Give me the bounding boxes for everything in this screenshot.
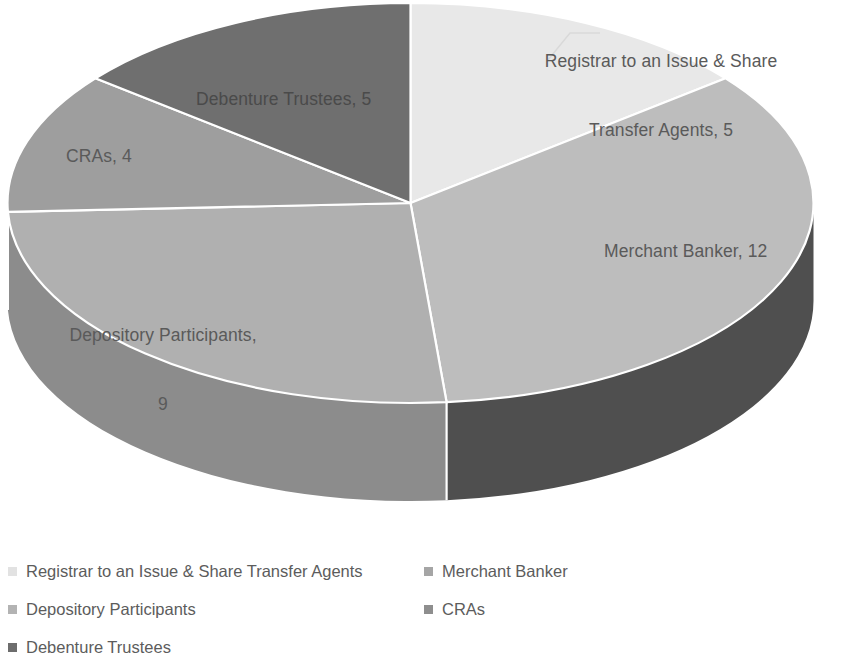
data-label-debenture-trustees: Debenture Trustees, 5 <box>196 88 371 111</box>
legend-swatch-icon <box>8 643 17 652</box>
legend-item-registrar[interactable]: Registrar to an Issue & Share Transfer A… <box>8 562 363 581</box>
data-label-cras: CRAs, 4 <box>66 145 132 168</box>
legend-label: Merchant Banker <box>442 562 568 581</box>
legend-label: CRAs <box>442 600 485 619</box>
legend-swatch-icon <box>424 605 433 614</box>
legend-label: Depository Participants <box>26 600 196 619</box>
legend-item-cras[interactable]: CRAs <box>424 600 485 619</box>
data-label-merchant-banker: Merchant Banker, 12 <box>604 240 767 263</box>
legend-item-merchant-banker[interactable]: Merchant Banker <box>424 562 568 581</box>
legend-swatch-icon <box>8 567 17 576</box>
legend-item-debenture-trustees[interactable]: Debenture Trustees <box>8 638 171 657</box>
chart-legend: Registrar to an Issue & Share Transfer A… <box>0 560 847 642</box>
legend-swatch-icon <box>8 605 17 614</box>
legend-label: Registrar to an Issue & Share Transfer A… <box>26 562 363 581</box>
data-label-depository-line2: 9 <box>47 393 279 416</box>
legend-item-depository-participants[interactable]: Depository Participants <box>8 600 196 619</box>
data-label-registrar-line2: Transfer Agents, 5 <box>531 119 791 142</box>
data-label-depository-participants: Depository Participants, 9 <box>47 278 279 463</box>
data-label-registrar: Registrar to an Issue & Share Transfer A… <box>531 4 791 189</box>
legend-label: Debenture Trustees <box>26 638 171 657</box>
legend-swatch-icon <box>424 567 433 576</box>
data-label-registrar-line1: Registrar to an Issue & Share <box>531 50 791 73</box>
data-label-depository-line1: Depository Participants, <box>47 324 279 347</box>
